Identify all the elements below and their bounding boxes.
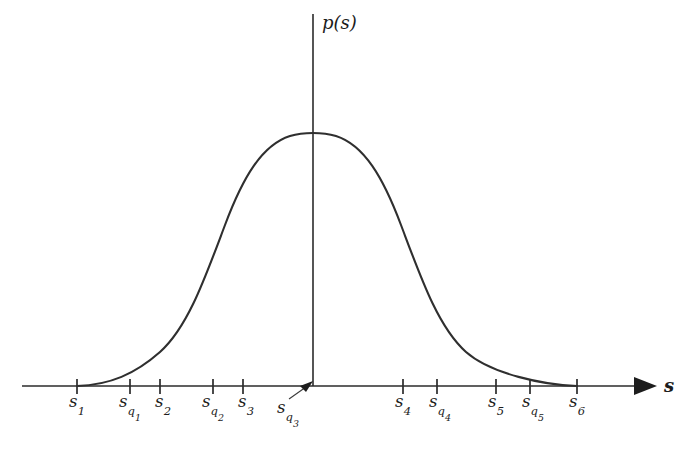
y-axis-label: p(s): [322, 12, 357, 33]
x-axis-arrowhead-icon: [634, 377, 657, 395]
tick-label-sq5: sq5: [522, 392, 544, 412]
probability-density-curve: [77, 133, 577, 386]
tick-label-sq2: sq2: [202, 392, 224, 412]
tick-label-s6: s6: [569, 392, 585, 411]
x-axis-label: s: [664, 375, 674, 396]
tick-label-sq3: sq3: [277, 398, 299, 418]
tick-label-sq1: sq1: [119, 392, 141, 412]
tick-label-s3: s3: [238, 392, 254, 411]
tick-label-s4: s4: [395, 392, 411, 411]
figure-container: p(s) s s1sq1s2sq2s3sq3s4sq4s5sq5s6: [0, 0, 682, 462]
tick-label-s1: s1: [69, 392, 85, 411]
tick-label-sq4: sq4: [429, 392, 451, 412]
tick-label-s2: s2: [155, 392, 171, 411]
tick-label-s5: s5: [488, 392, 504, 411]
